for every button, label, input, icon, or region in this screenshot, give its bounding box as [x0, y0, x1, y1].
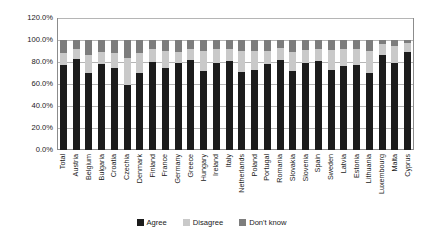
bar-segment[interactable] — [379, 55, 386, 150]
bar-segment[interactable] — [277, 40, 284, 48]
bar-segment[interactable] — [60, 40, 67, 53]
stacked-bar[interactable] — [302, 40, 309, 150]
bar-segment[interactable] — [251, 51, 258, 70]
bar-segment[interactable] — [264, 51, 271, 64]
bar-segment[interactable] — [200, 51, 207, 71]
stacked-bar[interactable] — [60, 40, 67, 150]
bar-segment[interactable] — [391, 63, 398, 150]
bar-segment[interactable] — [187, 60, 194, 150]
bar-segment[interactable] — [302, 50, 309, 63]
bar-segment[interactable] — [366, 40, 373, 51]
bar-segment[interactable] — [404, 43, 411, 52]
stacked-bar[interactable] — [136, 40, 143, 150]
bar-segment[interactable] — [353, 65, 360, 150]
stacked-bar[interactable] — [366, 40, 373, 150]
bar-segment[interactable] — [315, 40, 322, 49]
stacked-bar[interactable] — [353, 40, 360, 150]
bar-segment[interactable] — [328, 40, 335, 50]
bar-segment[interactable] — [404, 52, 411, 150]
bar-segment[interactable] — [251, 70, 258, 150]
stacked-bar[interactable] — [391, 40, 398, 150]
bar-segment[interactable] — [73, 59, 80, 150]
bar-segment[interactable] — [111, 53, 118, 67]
bar-segment[interactable] — [175, 40, 182, 52]
bar-segment[interactable] — [162, 40, 169, 51]
stacked-bar[interactable] — [379, 40, 386, 150]
stacked-bar[interactable] — [85, 40, 92, 150]
bar-segment[interactable] — [226, 49, 233, 61]
bar-segment[interactable] — [111, 68, 118, 151]
bar-segment[interactable] — [200, 71, 207, 150]
bar-segment[interactable] — [366, 73, 373, 150]
stacked-bar[interactable] — [289, 40, 296, 150]
bar-segment[interactable] — [98, 40, 105, 52]
legend-item[interactable]: Agree — [137, 219, 167, 227]
bar-segment[interactable] — [238, 40, 245, 51]
bar-segment[interactable] — [238, 51, 245, 72]
bar-segment[interactable] — [175, 63, 182, 150]
bar-segment[interactable] — [289, 52, 296, 71]
bar-segment[interactable] — [353, 49, 360, 66]
bar-segment[interactable] — [366, 51, 373, 73]
stacked-bar[interactable] — [277, 40, 284, 150]
stacked-bar[interactable] — [73, 40, 80, 150]
stacked-bar[interactable] — [124, 40, 131, 150]
bar-segment[interactable] — [175, 52, 182, 63]
bar-segment[interactable] — [149, 49, 156, 62]
stacked-bar[interactable] — [315, 40, 322, 150]
bar-segment[interactable] — [162, 68, 169, 151]
bar-segment[interactable] — [60, 53, 67, 65]
bar-segment[interactable] — [213, 63, 220, 150]
bar-segment[interactable] — [213, 40, 220, 49]
stacked-bar[interactable] — [149, 40, 156, 150]
bar-segment[interactable] — [328, 70, 335, 150]
bar-segment[interactable] — [302, 40, 309, 50]
bar-segment[interactable] — [315, 49, 322, 61]
bar-segment[interactable] — [98, 52, 105, 64]
bar-segment[interactable] — [85, 40, 92, 55]
stacked-bar[interactable] — [200, 40, 207, 150]
bar-segment[interactable] — [340, 40, 347, 49]
bar-segment[interactable] — [289, 71, 296, 150]
bar-segment[interactable] — [149, 62, 156, 150]
bar-segment[interactable] — [226, 61, 233, 150]
bar-segment[interactable] — [289, 40, 296, 52]
bar-segment[interactable] — [111, 40, 118, 53]
stacked-bar[interactable] — [328, 40, 335, 150]
legend-item[interactable]: Don't know — [239, 219, 286, 227]
bar-segment[interactable] — [162, 51, 169, 68]
bar-segment[interactable] — [200, 40, 207, 51]
bar-segment[interactable] — [340, 66, 347, 150]
bar-segment[interactable] — [277, 48, 284, 60]
stacked-bar[interactable] — [226, 40, 233, 150]
bar-segment[interactable] — [315, 61, 322, 150]
bar-segment[interactable] — [124, 58, 131, 86]
stacked-bar[interactable] — [264, 40, 271, 150]
stacked-bar[interactable] — [238, 40, 245, 150]
bar-segment[interactable] — [85, 73, 92, 150]
stacked-bar[interactable] — [404, 40, 411, 150]
bar-segment[interactable] — [238, 72, 245, 150]
stacked-bar[interactable] — [111, 40, 118, 150]
bar-segment[interactable] — [302, 63, 309, 150]
stacked-bar[interactable] — [162, 40, 169, 150]
stacked-bar[interactable] — [251, 40, 258, 150]
stacked-bar[interactable] — [213, 40, 220, 150]
bar-segment[interactable] — [379, 44, 386, 55]
bar-segment[interactable] — [264, 64, 271, 150]
bar-segment[interactable] — [149, 40, 156, 49]
bar-segment[interactable] — [187, 49, 194, 60]
bar-segment[interactable] — [124, 40, 131, 58]
bar-segment[interactable] — [226, 40, 233, 49]
stacked-bar[interactable] — [340, 40, 347, 150]
bar-segment[interactable] — [136, 73, 143, 150]
bar-segment[interactable] — [73, 40, 80, 49]
bar-segment[interactable] — [277, 60, 284, 150]
legend-item[interactable]: Disagree — [183, 219, 223, 227]
bar-segment[interactable] — [98, 64, 105, 150]
bar-segment[interactable] — [187, 40, 194, 49]
bar-segment[interactable] — [340, 49, 347, 67]
bar-segment[interactable] — [136, 53, 143, 73]
bar-segment[interactable] — [328, 50, 335, 70]
bar-segment[interactable] — [85, 55, 92, 73]
